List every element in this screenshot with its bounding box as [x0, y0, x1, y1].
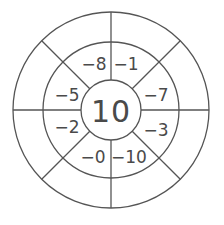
sector-label-left-top: −5	[54, 85, 79, 105]
sector-label-left-bottom: −2	[54, 117, 79, 137]
number-wheel-diagram: 10 −8 −1 −7 −3 −10 −0 −2 −5	[0, 0, 224, 225]
center-value: 10	[91, 94, 131, 129]
sector-label-right-bottom: −3	[143, 120, 168, 140]
wheel-svg: 10 −8 −1 −7 −3 −10 −0 −2 −5	[0, 0, 224, 225]
sector-label-bottom-left: −0	[80, 147, 105, 167]
sector-label-top-right: −1	[113, 54, 138, 74]
sector-label-bottom-right: −10	[111, 147, 147, 167]
sector-label-right-top: −7	[143, 85, 168, 105]
sector-label-top-left: −8	[81, 54, 106, 74]
